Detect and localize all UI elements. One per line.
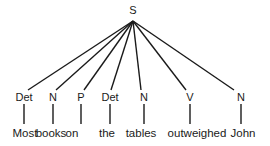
branch-line-n-6	[133, 21, 234, 90]
pos-node-n-1: N	[49, 92, 57, 103]
word-node-most: Most	[13, 128, 38, 140]
branch-line-v-5	[133, 21, 186, 90]
syntax-tree-figure: S DetNPDetNVN Mostbooksonthetablesoutwei…	[0, 0, 270, 146]
word-node-the: the	[99, 128, 115, 140]
word-node-on: on	[66, 128, 79, 140]
word-node-outweighed: outweighed	[168, 128, 227, 140]
pos-node-det-0: Det	[15, 92, 32, 103]
pos-node-v-5: V	[186, 92, 193, 103]
branch-line-det-0	[28, 21, 133, 90]
terminal-stems	[24, 104, 241, 124]
pos-node-det-3: Det	[101, 92, 118, 103]
branch-line-p-2	[84, 21, 133, 90]
word-node-john: John	[231, 128, 256, 140]
tree-edges-svg	[0, 0, 270, 146]
word-node-books: books	[36, 128, 67, 140]
pos-node-p-2: P	[77, 92, 84, 103]
pos-node-n-6: N	[237, 92, 245, 103]
root-node-s: S	[129, 5, 136, 16]
branch-line-n-4	[133, 21, 141, 90]
pos-node-n-4: N	[140, 92, 148, 103]
branch-lines	[28, 21, 234, 90]
word-node-tables: tables	[126, 128, 157, 140]
